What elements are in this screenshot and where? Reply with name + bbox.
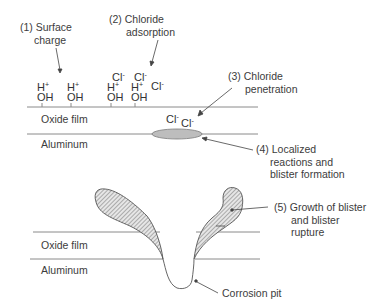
- step2-line2: adsorption: [109, 26, 175, 39]
- step5-label: (5) Growth of blister and blister ruptur…: [274, 201, 366, 239]
- blister-right-lobe: [194, 187, 243, 259]
- step2-line1: (2) Chloride: [109, 13, 175, 26]
- arrow-step2: [152, 40, 158, 62]
- step5-line2: and blister: [274, 214, 366, 227]
- arrow-step5-dot: [231, 209, 234, 212]
- step3-line2: penetration: [228, 83, 298, 96]
- ion-oh-1: OH: [37, 92, 54, 102]
- ion-oh-3: OH: [107, 92, 124, 102]
- corrosion-pit-outline: [163, 259, 194, 289]
- step1-line1: (1) Surface: [20, 21, 72, 34]
- arrowhead-step4: [202, 137, 207, 141]
- step5-line1: (5) Growth of blister: [274, 201, 366, 214]
- step4-line1: (4) Localized: [256, 143, 345, 156]
- arrowhead-step2: [150, 61, 154, 66]
- arrow-pit: [197, 282, 218, 293]
- ion-cl-penetrating-2: Cl-: [181, 118, 194, 128]
- ion-cl-penetrating-1: Cl-: [166, 114, 179, 124]
- ion-oh-4: OH: [131, 92, 148, 102]
- ion-cl-3: Cl-: [151, 81, 164, 91]
- arrow-step4: [206, 139, 253, 150]
- blister-ellipse: [152, 129, 202, 139]
- ion-oh-2: OH: [67, 92, 84, 102]
- bottom-oxide-film-label: Oxide film: [41, 239, 88, 252]
- blister-left-lobe: [95, 189, 163, 259]
- step1-label: (1) Surface charge: [20, 21, 72, 46]
- ion-cl-2: Cl-: [134, 72, 147, 82]
- arrow-step1: [56, 48, 60, 70]
- arrow-pit-dot: [195, 280, 198, 283]
- top-aluminum-label: Aluminum: [41, 138, 88, 151]
- ion-cl-1: Cl-: [112, 72, 125, 82]
- step4-label: (4) Localized reactions and blister form…: [256, 143, 345, 181]
- top-oxide-film-label: Oxide film: [41, 113, 88, 126]
- corrosion-pit-label: Corrosion pit: [222, 287, 282, 300]
- step1-line2: charge: [20, 34, 72, 47]
- bottom-aluminum-label: Aluminum: [41, 264, 88, 277]
- step3-label: (3) Chloride penetration: [228, 70, 298, 95]
- step5-line3: rupture: [274, 226, 366, 239]
- step2-label: (2) Chloride adsorption: [109, 13, 175, 38]
- step4-line3: blister formation: [256, 168, 345, 181]
- arrowhead-step1: [58, 69, 62, 73]
- arrowhead-step3: [198, 110, 203, 116]
- step4-line2: reactions and: [256, 156, 345, 169]
- step3-line1: (3) Chloride: [228, 70, 298, 83]
